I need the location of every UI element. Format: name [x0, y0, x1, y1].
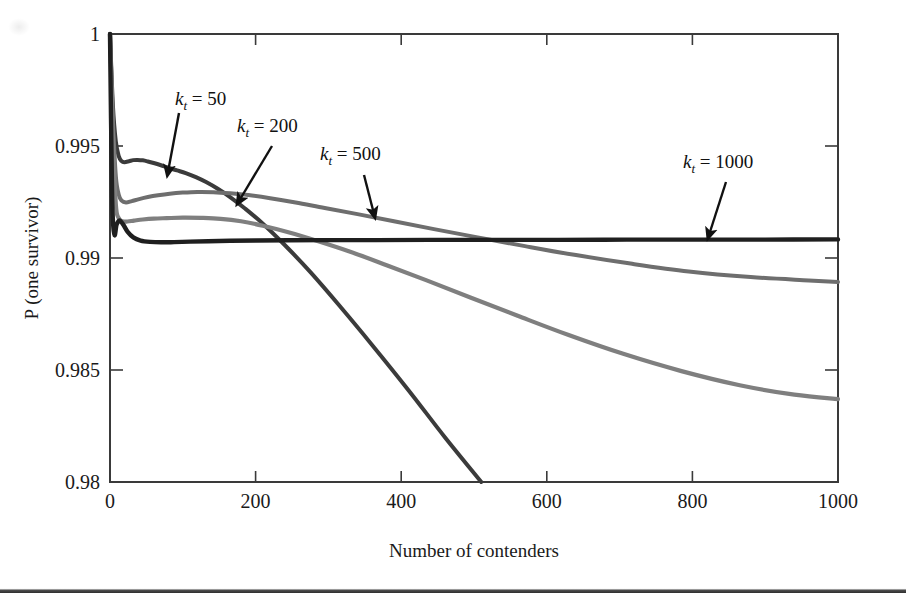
annotation-label: kt = 500	[320, 143, 381, 168]
x-tick-label: 400	[386, 490, 416, 512]
annotation-value: = 50	[187, 88, 226, 109]
y-tick-label: 0.995	[55, 135, 100, 157]
annotation-arrow	[364, 175, 374, 214]
x-tick-labels: 02004006008001000	[105, 490, 858, 512]
y-axis-title: P (one survivor)	[21, 197, 43, 320]
annotation-value: = 1000	[695, 151, 753, 172]
y-tick-label: 0.985	[55, 359, 100, 381]
x-tick-label: 0	[105, 490, 115, 512]
annotation-value: = 200	[249, 115, 298, 136]
annotation-arrow	[168, 113, 179, 172]
line-chart: 02004006008001000 0.980.9850.990.9951 Nu…	[0, 0, 906, 593]
x-axis-title: Number of contenders	[389, 540, 559, 561]
series-line	[110, 34, 838, 242]
x-tick-label: 600	[532, 490, 562, 512]
annotation-label: kt = 200	[237, 115, 298, 140]
scan-bottom-edge	[0, 586, 906, 593]
annotation-arrow	[709, 182, 726, 235]
annotation-arrow	[239, 146, 272, 201]
y-tick-label: 1	[90, 23, 100, 45]
series-line	[110, 34, 481, 482]
y-tick-labels: 0.980.9850.990.9951	[55, 23, 100, 493]
x-tick-label: 1000	[818, 490, 858, 512]
y-tick-label: 0.99	[65, 247, 100, 269]
y-tick-label: 0.98	[65, 471, 100, 493]
annotation-value: = 500	[332, 143, 381, 164]
figure-container: 02004006008001000 0.980.9850.990.9951 Nu…	[0, 0, 906, 593]
annotation-label: kt = 1000	[683, 151, 753, 176]
annotation-label: kt = 50	[175, 88, 226, 113]
x-tick-label: 200	[241, 490, 271, 512]
annotations: kt = 50kt = 200kt = 500kt = 1000	[168, 88, 753, 235]
x-tick-label: 800	[677, 490, 707, 512]
